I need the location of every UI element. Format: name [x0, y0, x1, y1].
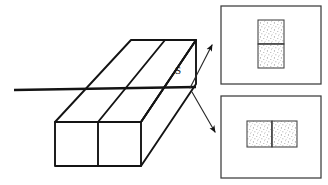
technical-section-diagram: S	[0, 0, 328, 185]
figure-container: S	[0, 0, 328, 185]
top-panel-section	[258, 20, 284, 68]
bottom-panel-section	[247, 121, 297, 147]
bottom-panel-section-cell-right	[272, 121, 297, 147]
top-panel-section-cell-lower	[258, 44, 284, 68]
section-plane-label: S	[175, 64, 181, 76]
top-panel-section-cell-upper	[258, 20, 284, 44]
bottom-panel-section-cell-left	[247, 121, 272, 147]
